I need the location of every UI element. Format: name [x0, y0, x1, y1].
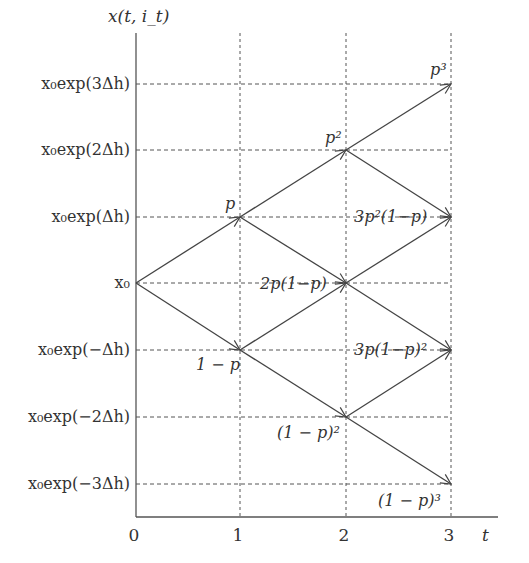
prob-t2-up2: p²: [325, 130, 342, 146]
edge-1u-up: [240, 150, 346, 217]
prob-t3-down1: 3p(1−p)²: [354, 342, 427, 358]
y-level-m1dh: x₀exp(−Δh): [0, 342, 130, 358]
y-axis-title: x(t, i_t): [108, 8, 169, 25]
y-level-3dh: x₀exp(3Δh): [0, 76, 130, 92]
edge-2dd-down: [346, 417, 451, 484]
prob-t1-up: p: [225, 196, 235, 212]
x-axis-title: t: [482, 527, 489, 544]
y-level-m3dh: x₀exp(−3Δh): [0, 476, 130, 492]
prob-t3-up3: p³: [430, 62, 447, 78]
edge-1d-up: [240, 283, 346, 350]
y-level-0: x₀: [0, 275, 130, 291]
prob-t3-down3: (1 − p)³: [378, 493, 441, 509]
x-tick-2: 2: [334, 527, 354, 544]
prob-t2-down2: (1 − p)²: [277, 425, 340, 441]
edge-1d-down: [240, 350, 346, 417]
prob-t3-up1: 3p²(1−p): [354, 209, 427, 225]
y-level-1dh: x₀exp(Δh): [0, 209, 130, 225]
y-level-m2dh: x₀exp(−2Δh): [0, 409, 130, 425]
x-tick-1: 1: [228, 527, 248, 544]
edge-2m-up: [346, 217, 451, 283]
edge-2uu-up: [346, 84, 451, 150]
prob-t1-down: 1 − p: [196, 357, 240, 373]
x-tick-0: 0: [124, 527, 144, 544]
edge-0-down: [136, 283, 240, 350]
prob-t2-mid: 2p(1−p): [260, 276, 327, 292]
edge-0-up: [136, 217, 240, 283]
y-level-2dh: x₀exp(2Δh): [0, 142, 130, 158]
edge-2dd-up: [346, 350, 451, 417]
x-tick-3: 3: [439, 527, 459, 544]
